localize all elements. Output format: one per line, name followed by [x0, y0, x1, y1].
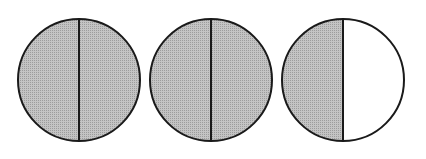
fraction-circles-diagram: [0, 0, 426, 159]
left-half: [150, 19, 211, 141]
circle-1: [18, 19, 140, 141]
left-half: [282, 19, 343, 141]
right-half: [79, 19, 140, 141]
left-half: [18, 19, 79, 141]
diagram-canvas: [0, 0, 426, 159]
right-half: [343, 19, 404, 141]
circle-3: [282, 19, 404, 141]
circle-2: [150, 19, 272, 141]
right-half: [211, 19, 272, 141]
